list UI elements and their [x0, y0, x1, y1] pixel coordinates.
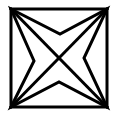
- geometric-figure: [0, 0, 115, 114]
